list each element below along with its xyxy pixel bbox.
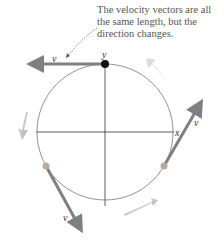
vector-label-left: v⃗ <box>63 212 75 223</box>
particle-right <box>161 163 168 170</box>
pointer-line <box>68 28 97 56</box>
x-label: x <box>174 127 180 138</box>
y-label: y <box>101 49 107 60</box>
particle-top <box>101 60 109 68</box>
motion-arrow-left <box>18 112 28 140</box>
circular-motion-diagram: y x v⃗ v⃗ v⃗ <box>0 0 217 246</box>
motion-arrow-top <box>146 58 168 82</box>
vector-label-top: v⃗ <box>52 53 64 64</box>
motion-arrow-bottom <box>124 198 158 216</box>
vector-label-right: v⃗ <box>194 117 206 128</box>
velocity-vector-right <box>164 104 200 166</box>
particle-left <box>43 163 50 170</box>
